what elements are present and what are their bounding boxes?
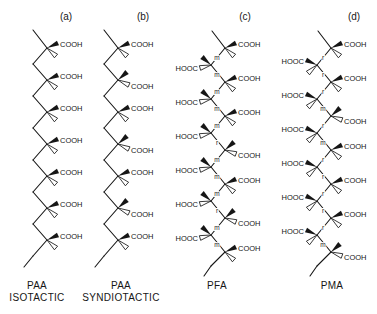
svg-text:COOH: COOH <box>238 40 261 49</box>
svg-text:m: m <box>214 54 219 61</box>
figure: COOHCOOHCOOHCOOHCOOHCOOHCOOHCOOHCOOHCOOH… <box>0 0 377 314</box>
svg-text:COOH: COOH <box>344 117 367 126</box>
panel-b-caption: PAA SYNDIOTACTIC <box>82 280 159 304</box>
svg-text:COOH: COOH <box>131 232 154 241</box>
svg-text:COOH: COOH <box>238 176 261 185</box>
caption-line: PAA <box>82 280 159 292</box>
svg-text:m: m <box>214 88 219 95</box>
svg-text:COOH: COOH <box>131 210 154 219</box>
svg-text:r: r <box>322 54 325 61</box>
svg-text:m: m <box>214 190 219 197</box>
svg-text:COOH: COOH <box>60 40 83 49</box>
svg-text:r: r <box>322 88 325 95</box>
svg-text:m: m <box>214 241 219 248</box>
svg-text:r: r <box>322 190 325 197</box>
panel-d-header: (d) <box>348 11 360 22</box>
svg-text:m: m <box>320 105 325 112</box>
svg-text:m: m <box>214 156 219 163</box>
svg-text:HOOC: HOOC <box>176 166 199 175</box>
svg-text:HOOC: HOOC <box>176 98 199 107</box>
panel-b-structure: COOHCOOHCOOHCOOHCOOHCOOHCOOH <box>95 30 154 267</box>
svg-text:COOH: COOH <box>60 104 83 113</box>
svg-text:COOH: COOH <box>60 232 83 241</box>
svg-text:m: m <box>320 241 325 248</box>
svg-text:HOOC: HOOC <box>176 64 199 73</box>
caption-line: SYNDIOTACTIC <box>82 292 159 304</box>
svg-text:COOH: COOH <box>238 244 261 253</box>
svg-text:m: m <box>214 105 219 112</box>
svg-text:m: m <box>214 122 219 129</box>
svg-text:COOH: COOH <box>344 176 367 185</box>
svg-text:HOOC: HOOC <box>176 132 199 141</box>
panel-a-caption: PAA ISOTACTIC <box>9 280 64 304</box>
panel-a-header: (a) <box>60 11 72 22</box>
svg-text:COOH: COOH <box>238 219 261 228</box>
svg-text:COOH: COOH <box>344 40 367 49</box>
caption-line: PAA <box>9 280 64 292</box>
svg-text:COOH: COOH <box>60 136 83 145</box>
svg-text:HOOC: HOOC <box>282 57 305 66</box>
svg-text:COOH: COOH <box>131 40 154 49</box>
svg-text:m: m <box>214 173 219 180</box>
svg-text:m: m <box>320 139 325 146</box>
svg-text:COOH: COOH <box>238 108 261 117</box>
svg-text:HOOC: HOOC <box>282 125 305 134</box>
svg-text:COOH: COOH <box>131 146 154 155</box>
svg-text:HOOC: HOOC <box>282 91 305 100</box>
caption-line: PFA <box>207 280 227 292</box>
svg-text:COOH: COOH <box>238 151 261 160</box>
svg-text:COOH: COOH <box>344 74 367 83</box>
svg-text:COOH: COOH <box>60 200 83 209</box>
svg-text:COOH: COOH <box>60 168 83 177</box>
svg-text:HOOC: HOOC <box>282 159 305 168</box>
svg-text:HOOC: HOOC <box>282 193 305 202</box>
panel-c-structure: COOHmHOOCmCOOHmHOOCmCOOHmHOOCrCOOHmHOOCm… <box>176 31 261 276</box>
svg-text:COOH: COOH <box>131 82 154 91</box>
caption-line: ISOTACTIC <box>9 292 64 304</box>
panel-c-header: (c) <box>239 11 251 22</box>
svg-text:COOH: COOH <box>131 104 154 113</box>
panel-a-structure: COOHCOOHCOOHCOOHCOOHCOOHCOOH <box>24 30 83 267</box>
svg-text:COOH: COOH <box>238 74 261 83</box>
svg-text:COOH: COOH <box>344 142 367 151</box>
caption-line: PMA <box>321 280 344 292</box>
svg-text:m: m <box>214 71 219 78</box>
svg-text:COOH: COOH <box>60 72 83 81</box>
svg-text:HOOC: HOOC <box>176 234 199 243</box>
svg-text:m: m <box>214 224 219 231</box>
panel-b-header: (b) <box>137 11 149 22</box>
svg-text:COOH: COOH <box>131 168 154 177</box>
panel-d-caption: PMA <box>321 280 344 292</box>
svg-text:r: r <box>322 122 325 129</box>
svg-text:HOOC: HOOC <box>282 227 305 236</box>
svg-text:HOOC: HOOC <box>176 200 199 209</box>
panel-c-caption: PFA <box>207 280 227 292</box>
svg-text:r: r <box>322 224 325 231</box>
structure-canvas: COOHCOOHCOOHCOOHCOOHCOOHCOOHCOOHCOOHCOOH… <box>0 0 377 314</box>
svg-text:r: r <box>322 156 325 163</box>
svg-text:COOH: COOH <box>344 253 367 262</box>
panel-d-structure: COOHrHOOCrCOOHrHOOCmCOOHrHOOCmCOOHrHOOCr… <box>282 31 367 276</box>
svg-text:COOH: COOH <box>344 210 367 219</box>
